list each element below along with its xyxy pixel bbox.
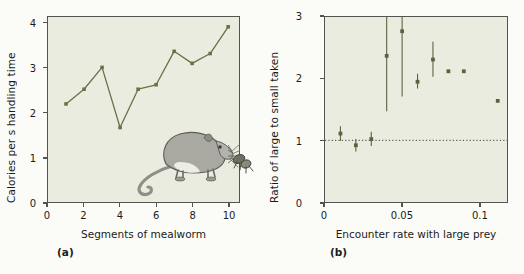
panel-a-y-axis-label: Calories per s handling time bbox=[5, 16, 17, 203]
panel-a-y-tick-label: 4 bbox=[22, 17, 36, 28]
panel-b-data-point bbox=[400, 29, 404, 33]
panel-a-x-tick-label: 6 bbox=[153, 210, 159, 221]
panel-a-data-point bbox=[154, 83, 158, 87]
panel-a-x-tick-mark bbox=[228, 203, 229, 207]
panel-b-scatter-chart bbox=[325, 17, 507, 202]
panel-b-data-point bbox=[431, 58, 435, 62]
panel-b-x-tick-label: 0.1 bbox=[472, 210, 488, 221]
panel-b-y-tick-label: 1 bbox=[288, 135, 302, 146]
panel-b-y-tick-label: 2 bbox=[288, 73, 302, 84]
panel-b-x-tick-label: 0 bbox=[321, 210, 327, 221]
panel-a-data-point bbox=[190, 62, 194, 66]
panel-a-x-tick-mark bbox=[192, 203, 193, 207]
panel-a-y-tick-label: 2 bbox=[22, 107, 36, 118]
panel-b-y-tick-label: 3 bbox=[288, 11, 302, 22]
panel-b-y-tick-mark bbox=[320, 140, 324, 141]
panel-a-y-tick-label: 1 bbox=[22, 152, 36, 163]
panel-a-data-point bbox=[208, 52, 212, 56]
panel-a-x-tick-label: 10 bbox=[223, 210, 236, 221]
panel-a-data-point bbox=[136, 87, 140, 91]
panel-a-y-tick-mark bbox=[43, 22, 47, 23]
panel-a-x-axis-label: Segments of mealworm bbox=[47, 228, 240, 240]
panel-b-data-point bbox=[354, 143, 358, 147]
panel-a-y-tick-label: 3 bbox=[22, 62, 36, 73]
panel-a-y-tick-label: 0 bbox=[22, 198, 36, 209]
panel-b-y-axis-label: Ratio of large to small taken bbox=[268, 16, 280, 203]
panel-b-x-tick-mark bbox=[401, 203, 402, 207]
panel-b-data-point bbox=[416, 80, 420, 84]
panel-b-data-point bbox=[447, 69, 451, 73]
panel-b-x-tick-label: 0.05 bbox=[391, 210, 413, 221]
panel-a-x-tick-label: 2 bbox=[80, 210, 86, 221]
panel-b-data-point bbox=[339, 132, 343, 136]
panel-a-data-point bbox=[100, 66, 104, 70]
panel-b-x-tick-mark bbox=[479, 203, 480, 207]
panel-b-y-tick-mark bbox=[320, 15, 324, 16]
panel-a-data-point bbox=[172, 50, 176, 54]
panel-a-data-point bbox=[118, 126, 122, 130]
panel-a-y-tick-mark bbox=[43, 67, 47, 68]
panel-a-data-point bbox=[226, 25, 230, 29]
panel-b-data-point bbox=[462, 69, 466, 73]
panel-b-data-point bbox=[496, 99, 500, 103]
panel-b-x-tick-mark bbox=[323, 203, 324, 207]
panel-a-x-tick-mark bbox=[83, 203, 84, 207]
panel-a-x-tick-mark bbox=[119, 203, 120, 207]
panel-a-x-tick-label: 4 bbox=[117, 210, 123, 221]
shrew-and-mealworm-illustration bbox=[128, 108, 240, 200]
panel-b-y-tick-mark bbox=[320, 78, 324, 79]
panel-b-y-tick-label: 0 bbox=[288, 198, 302, 209]
panel-a-x-tick-mark bbox=[156, 203, 157, 207]
panel-a-y-tick-mark bbox=[43, 112, 47, 113]
panel-b-tag: (b) bbox=[330, 246, 347, 258]
figure-container: Calories per s handling time 01234 02468… bbox=[0, 0, 524, 274]
mealworm-illustration bbox=[228, 145, 262, 187]
panel-a-tag: (a) bbox=[57, 246, 74, 258]
panel-b-x-axis-label: Encounter rate with large prey bbox=[324, 228, 508, 240]
panel-a-x-tick-label: 8 bbox=[189, 210, 195, 221]
panel-b-plot-area bbox=[324, 16, 508, 203]
panel-a: Calories per s handling time 01234 02468… bbox=[0, 0, 262, 274]
panel-b-data-point bbox=[385, 54, 389, 58]
panel-a-y-tick-mark bbox=[43, 157, 47, 158]
panel-a-x-tick-label: 0 bbox=[44, 210, 50, 221]
panel-a-data-point bbox=[82, 87, 86, 91]
panel-a-x-tick-mark bbox=[46, 203, 47, 207]
panel-a-data-point bbox=[64, 102, 68, 106]
panel-b-data-point bbox=[369, 137, 373, 141]
